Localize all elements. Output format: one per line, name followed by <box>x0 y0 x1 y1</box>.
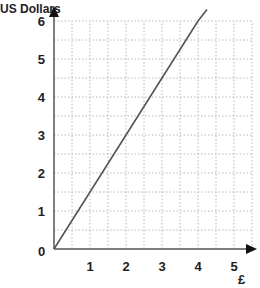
x-axis-title: £ <box>238 272 246 287</box>
x-tick-label: 2 <box>122 259 129 274</box>
y-tick-label: 5 <box>38 52 45 67</box>
conversion-line <box>54 10 207 249</box>
x-tick-labels: 12345 <box>86 259 237 274</box>
grid-lines <box>54 21 252 249</box>
origin-label: 0 <box>38 244 45 259</box>
y-tick-labels: 123456 <box>38 14 46 219</box>
conversion-chart: US Dollars £ 0 12345 123456 <box>0 0 260 288</box>
x-tick-label: 1 <box>86 259 93 274</box>
x-tick-label: 5 <box>230 259 237 274</box>
y-tick-label: 2 <box>38 166 45 181</box>
series-line <box>54 10 207 249</box>
y-tick-label: 4 <box>38 90 46 105</box>
x-tick-label: 3 <box>158 259 165 274</box>
axis-labels: US Dollars £ 0 <box>0 2 246 287</box>
y-tick-label: 1 <box>38 204 45 219</box>
y-tick-label: 6 <box>38 14 45 29</box>
y-axis-title: US Dollars <box>0 2 61 16</box>
x-tick-label: 4 <box>194 259 202 274</box>
axes <box>49 6 257 254</box>
y-tick-label: 3 <box>38 128 45 143</box>
